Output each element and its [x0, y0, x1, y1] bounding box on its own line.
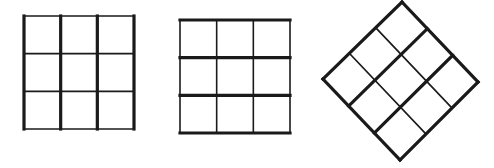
figure-canvas [0, 0, 494, 168]
grid-figure [0, 0, 494, 168]
grid-vertical-emphasis [24, 16, 134, 129]
grid-diagonal-emphasis [323, 2, 478, 160]
grid-horizontal-emphasis [180, 20, 290, 133]
